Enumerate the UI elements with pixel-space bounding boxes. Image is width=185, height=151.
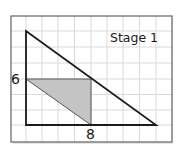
vertical-side-label: 6 — [11, 72, 20, 86]
stage-title: Stage 1 — [110, 32, 158, 45]
horizontal-side-label: 8 — [86, 127, 95, 141]
